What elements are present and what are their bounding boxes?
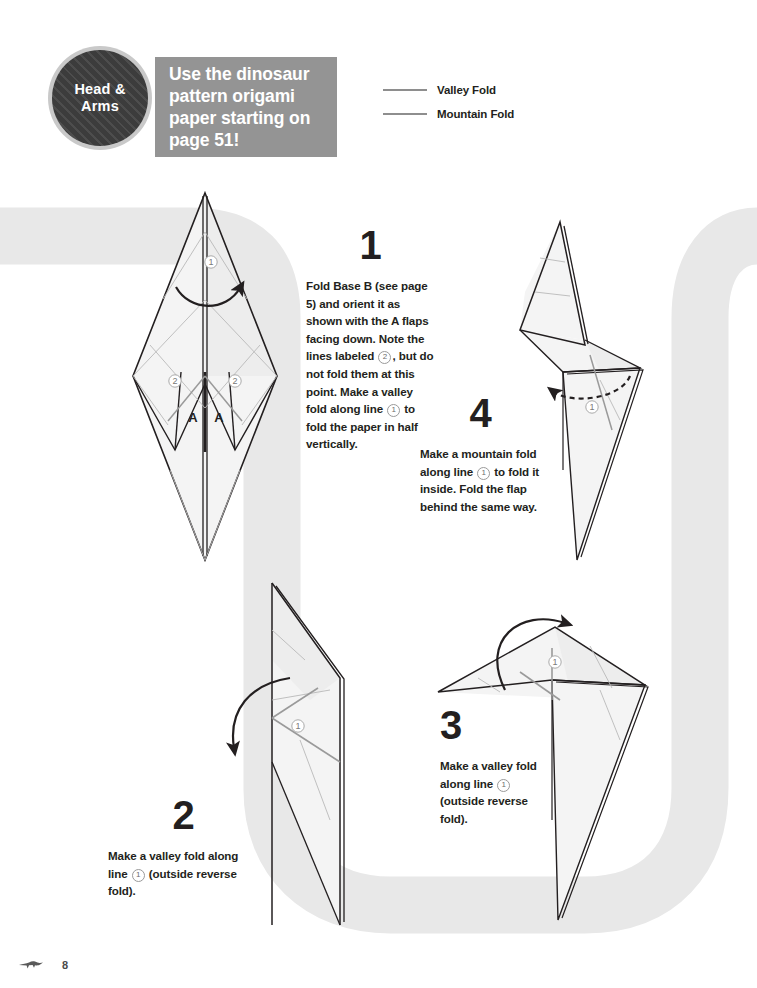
flap-label-a-left: A bbox=[188, 410, 198, 425]
origami-instruction-page: Head & Arms Use the dinosaur pattern ori… bbox=[0, 0, 757, 988]
marker-1-step4: 1 bbox=[586, 401, 598, 413]
svg-text:1: 1 bbox=[552, 657, 557, 667]
step-3-marker-1: 1 bbox=[497, 779, 510, 792]
marker-2-left-step1: 2 bbox=[169, 375, 181, 387]
marker-2-right-step1: 2 bbox=[229, 375, 241, 387]
flap-label-a-right: A bbox=[214, 410, 224, 425]
svg-text:1: 1 bbox=[295, 721, 300, 731]
step-3-text: Make a valley fold along line 1 (outside… bbox=[440, 757, 555, 827]
svg-text:1: 1 bbox=[208, 257, 213, 267]
step-3-text-part-a: Make a valley fold along line bbox=[440, 759, 537, 790]
diagram-step-1: 1 2 2 A A bbox=[133, 193, 277, 560]
step-3-number: 3 bbox=[440, 705, 555, 745]
step-3-block: 3 Make a valley fold along line 1 (outsi… bbox=[440, 705, 555, 827]
step-2-number: 2 bbox=[108, 795, 258, 835]
svg-text:2: 2 bbox=[172, 376, 177, 386]
step-4-block: 4 Make a mountain fold along line 1 to f… bbox=[420, 393, 540, 515]
marker-1-step3: 1 bbox=[549, 656, 561, 668]
page-number: 8 bbox=[62, 959, 68, 971]
step-1-number: 1 bbox=[306, 225, 434, 265]
step-1-marker-2: 2 bbox=[378, 351, 391, 364]
svg-text:1: 1 bbox=[589, 402, 594, 412]
step-1-text: Fold Base B (see page 5) and orient it a… bbox=[306, 277, 434, 453]
step-1-block: 1 Fold Base B (see page 5) and orient it… bbox=[306, 225, 434, 453]
dinosaur-icon bbox=[18, 958, 44, 972]
step-4-marker-1: 1 bbox=[477, 467, 490, 480]
step-4-text: Make a mountain fold along line 1 to fol… bbox=[420, 445, 540, 515]
step-2-text: Make a valley fold along line 1 (outside… bbox=[108, 847, 258, 900]
page-footer: 8 bbox=[18, 958, 68, 972]
step-3-text-part-b: (outside reverse fold). bbox=[440, 794, 528, 825]
marker-1-step2: 1 bbox=[292, 720, 304, 732]
svg-text:2: 2 bbox=[232, 376, 237, 386]
step-4-number: 4 bbox=[420, 393, 540, 433]
step-2-block: 2 Make a valley fold along line 1 (outsi… bbox=[108, 795, 258, 900]
step-2-marker-1: 1 bbox=[132, 869, 145, 882]
marker-1-step1: 1 bbox=[205, 256, 217, 268]
step-1-marker-1: 1 bbox=[387, 404, 400, 417]
